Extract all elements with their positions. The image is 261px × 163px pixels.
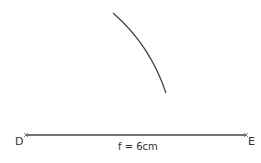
construction-diagram [0,0,261,163]
point-label-e: E [248,136,255,147]
segment-length-label: f = 6cm [118,142,158,152]
point-label-d: D [15,136,23,147]
construction-arc [113,13,166,93]
